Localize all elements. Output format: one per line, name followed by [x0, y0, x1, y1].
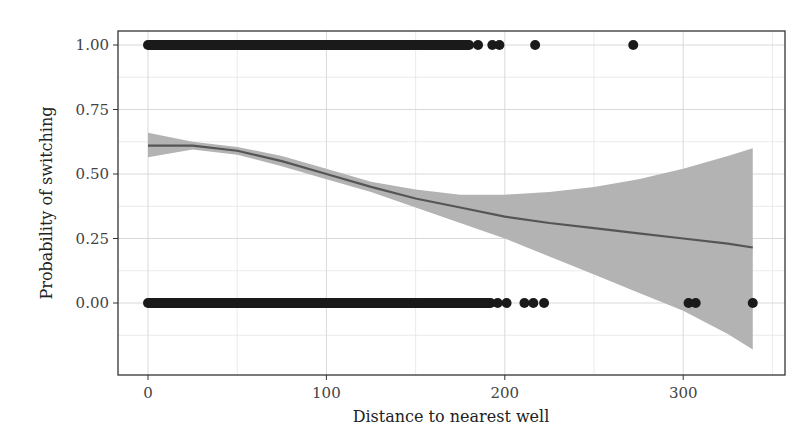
- confidence-ribbon: [148, 133, 753, 350]
- data-point: [493, 298, 503, 308]
- scatter-chart: 0100200300 0.000.250.500.751.00 Distance…: [0, 0, 805, 445]
- data-point: [628, 40, 638, 50]
- data-point: [539, 298, 549, 308]
- data-point: [494, 40, 504, 50]
- y-axis-title: Probability of switching: [37, 107, 56, 300]
- x-tick-label: 300: [669, 384, 698, 402]
- x-tick-label: 200: [490, 384, 519, 402]
- data-point: [748, 298, 758, 308]
- data-point: [691, 298, 701, 308]
- x-tick-label: 100: [312, 384, 341, 402]
- data-point: [502, 298, 512, 308]
- x-axis-title: Distance to nearest well: [353, 407, 550, 426]
- data-point: [530, 40, 540, 50]
- y-tick-label: 0.00: [76, 294, 109, 312]
- data-point: [528, 298, 538, 308]
- data-point: [473, 40, 483, 50]
- x-tick-label: 0: [143, 384, 153, 402]
- y-axis: 0.000.250.500.751.00: [76, 36, 118, 312]
- y-tick-label: 0.75: [76, 101, 109, 119]
- x-axis: 0100200300: [143, 375, 697, 402]
- y-tick-label: 1.00: [76, 36, 109, 54]
- y-tick-label: 0.50: [76, 165, 109, 183]
- data-point: [519, 298, 529, 308]
- y-tick-label: 0.25: [76, 230, 109, 248]
